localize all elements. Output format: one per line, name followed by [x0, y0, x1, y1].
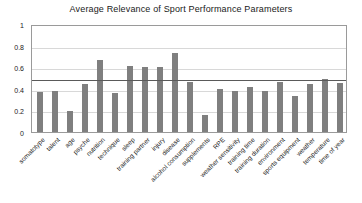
bar: [232, 91, 238, 132]
bar-series: [32, 26, 346, 132]
bar: [202, 115, 208, 132]
chart-figure: Average Relevance of Sport Performance P…: [0, 0, 362, 203]
chart-title: Average Relevance of Sport Performance P…: [0, 4, 362, 14]
y-tick-label: 1: [20, 22, 24, 29]
y-tick-label: 0: [20, 130, 24, 137]
bar: [82, 84, 88, 132]
bar: [67, 111, 73, 132]
plot-area: [31, 25, 347, 133]
bar: [292, 96, 298, 132]
y-tick-label: 0.2: [14, 108, 24, 115]
bar: [97, 60, 103, 132]
bar: [277, 82, 283, 132]
bar: [37, 92, 43, 132]
x-axis: somatotypetalentagepsychenutritiontechni…: [31, 134, 347, 200]
bar: [157, 67, 163, 132]
y-tick-label: 0.4: [14, 86, 24, 93]
bar: [112, 93, 118, 132]
y-tick-label: 0.6: [14, 65, 24, 72]
bar: [127, 66, 133, 132]
bar: [172, 53, 178, 132]
bar: [307, 84, 313, 132]
bar: [142, 67, 148, 132]
y-axis: 00.20.40.60.81: [0, 25, 28, 133]
y-tick-label: 0.8: [14, 43, 24, 50]
bar: [217, 89, 223, 132]
bar: [247, 87, 253, 132]
bar: [187, 82, 193, 132]
bar: [262, 91, 268, 132]
reference-line: [32, 80, 346, 81]
bar: [337, 83, 343, 132]
bar: [52, 91, 58, 132]
bar: [322, 79, 328, 132]
